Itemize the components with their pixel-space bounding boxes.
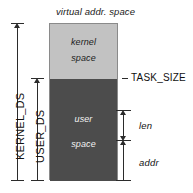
kernel-ds-label: KERNEL_DS bbox=[14, 93, 26, 160]
addr-arrow-shaft bbox=[123, 143, 124, 180]
kernel-ds-tick-top bbox=[11, 23, 24, 24]
len-arrowhead-top bbox=[120, 110, 126, 115]
user-ds-tick-top bbox=[31, 78, 44, 79]
addr-arrowhead-top bbox=[120, 140, 126, 145]
task-size-label: TASK_SIZE bbox=[131, 72, 186, 83]
user-space-label-line2: space bbox=[50, 139, 117, 149]
addr-label: addr bbox=[139, 157, 159, 168]
kernel-space-label-line2: space bbox=[50, 53, 117, 63]
user-ds-label: USER_DS bbox=[34, 110, 46, 163]
user-space-region: user space bbox=[50, 79, 117, 181]
kernel-ds-tick-bottom bbox=[11, 180, 24, 181]
memory-layout-rectangle: kernel space user space bbox=[49, 23, 118, 180]
virtual-address-space-diagram: virtual addr. space kernel space user sp… bbox=[0, 0, 193, 193]
len-arrow-shaft bbox=[123, 113, 124, 138]
addr-tick-bottom bbox=[116, 180, 131, 181]
task-size-dash-icon bbox=[122, 78, 128, 79]
kernel-space-region: kernel space bbox=[50, 24, 117, 79]
user-ds-tick-bottom bbox=[31, 180, 44, 181]
user-space-label-line1: user bbox=[50, 114, 117, 124]
kernel-space-label-line1: kernel bbox=[50, 37, 117, 47]
diagram-title: virtual addr. space bbox=[33, 6, 158, 17]
len-label: len bbox=[139, 120, 152, 131]
